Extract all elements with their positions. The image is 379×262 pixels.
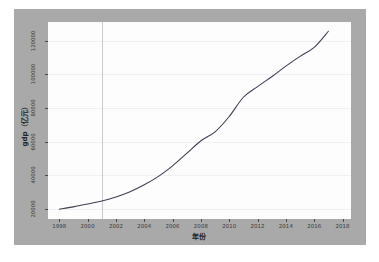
y-tick-label: 80000 <box>30 95 36 121</box>
y-tick-label: 20000 <box>30 196 36 222</box>
x-tick-label: 2004 <box>137 223 151 229</box>
x-tick-mark <box>144 219 145 222</box>
x-tick-label: 2008 <box>194 223 208 229</box>
x-tick-mark <box>286 219 287 222</box>
x-tick-label: 1998 <box>52 223 66 229</box>
x-tick-mark <box>343 219 344 222</box>
x-tick-label: 2002 <box>109 223 123 229</box>
y-tick-label: 100000 <box>30 61 36 87</box>
y-tick-mark <box>45 142 48 143</box>
x-tick-mark <box>116 219 117 222</box>
gdp-line-series <box>48 22 351 219</box>
x-tick-label: 2016 <box>307 223 321 229</box>
x-tick-mark <box>258 219 259 222</box>
y-tick-label: 120000 <box>30 28 36 54</box>
x-tick-label: 2000 <box>81 223 95 229</box>
y-tick-mark <box>45 209 48 210</box>
gdp-curve-path <box>59 31 328 209</box>
x-tick-mark <box>229 219 230 222</box>
x-axis-title: 年份 <box>192 231 206 241</box>
y-tick-label: 60000 <box>30 129 36 155</box>
y-tick-mark <box>45 74 48 75</box>
y-tick-mark <box>45 108 48 109</box>
x-tick-label: 2014 <box>279 223 293 229</box>
x-tick-mark <box>59 219 60 222</box>
x-tick-mark <box>201 219 202 222</box>
y-tick-mark <box>45 41 48 42</box>
y-tick-label: 40000 <box>30 162 36 188</box>
x-tick-label: 2006 <box>166 223 180 229</box>
x-tick-label: 2018 <box>335 223 349 229</box>
y-axis-title: gdp（亿元） <box>19 103 29 146</box>
x-tick-mark <box>88 219 89 222</box>
chart-figure: 1998200020022004200620082010201220142016… <box>0 0 379 262</box>
x-tick-label: 2012 <box>250 223 264 229</box>
x-tick-mark <box>173 219 174 222</box>
x-tick-mark <box>314 219 315 222</box>
y-tick-mark <box>45 175 48 176</box>
x-tick-label: 2010 <box>222 223 236 229</box>
